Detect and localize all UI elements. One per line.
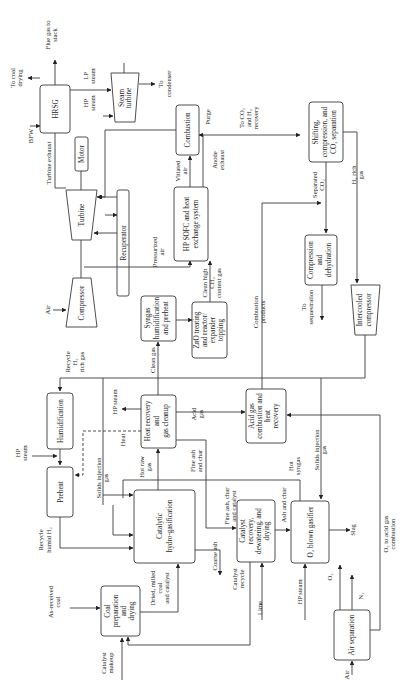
compression-label-2: and [316,254,324,265]
to-condenser-1: To [157,80,164,88]
recycle-h2-3: rich gas [78,351,85,372]
heat-label: Heat [119,434,126,447]
heat-recovery-label-1: Heat recovery [144,400,152,441]
recycle-humid-h2-1: Recycle [37,529,44,550]
syngas-label-3: and preheat [162,301,170,334]
air-left-label: Air [44,305,51,315]
dried-coal-1: Dried, milled [149,570,156,606]
o2-acid-2: combustion [389,518,396,549]
to-co2-2: and H₂ [245,109,252,127]
catalyst-recovery-label-1: Catalyst [239,519,247,543]
clean-ch4-2: CH₄ [208,277,215,289]
catalyst-recycle-1: Catalyst [231,568,238,590]
acid-gas-label-1: Acid gas [248,403,256,429]
catalyst-recovery-label-4: drying [263,521,271,540]
pressurized-air-2: air [158,248,165,256]
catalytic-hydrogasification-unit [134,490,195,563]
process-flow-diagram: HRSG Steam turbine Motor Turbine Compres… [0,0,411,683]
slag-label: Slag [349,523,356,535]
shifting-label-3: CO₂ separation [330,110,338,154]
shifting-label-1: Shifting, [312,119,320,144]
lime-label: Lime [256,601,263,615]
hot-raw-gas-1: Hot raw [138,456,145,478]
coal-prep-label-1: Coal [104,604,112,618]
preheat-label: Preheat [57,481,65,503]
catalyst-recycle-2: recycle [238,569,245,588]
syngas-label-1: Syngas [144,307,152,328]
anode-exhaust-1: Anode [211,151,218,169]
vitiated-air-2: air [181,167,188,175]
lp-steam-1: LP [82,72,89,80]
hp-steam-bottom-label: HP steam [296,579,303,605]
hot-syngas-2: syngas [294,457,301,475]
fine-ash-cat-2: and catalyst [230,490,237,521]
combustion-products-2: products [259,300,266,323]
heat-recovery-label-3: gas cleanup [162,404,170,438]
fine-ash-char-2: and char [196,449,203,472]
recuperator-label: Recuperator [120,225,128,261]
zno-label-4: topping [217,319,225,341]
air-separation-label: Air separation [348,614,356,655]
lp-steam-2: steam [89,67,96,83]
h2-rich-gas-2: gas [357,170,364,179]
anode-exhaust-2: exhaust [218,150,225,170]
coal-prep-label-3: and [120,605,128,616]
air-bottom-label: Air [343,670,350,680]
zno-label-3: expander [209,316,217,343]
catalyst-makeup-2: makeup [107,652,114,674]
zno-label-1: ZnO treating [193,311,201,348]
dried-coal-3: and catalyst [163,572,170,603]
solids-injection-1a: Solids injection [95,457,102,499]
recycle-h2-2: H₂ [71,358,78,365]
syngas-label-2: humidification [153,296,161,339]
zno-label-2: and reactor/ [201,313,209,347]
hp-steam-mid-label: HP steam [111,389,118,415]
clean-gas-label: Clean gas [149,347,156,373]
turbine-exhaust-label: Turbine exhaust [45,142,52,185]
clean-ch4-1: Clean high [201,268,208,297]
turbine-label: Turbine [78,204,86,227]
fine-ash-char-1: Fine ash [189,449,196,472]
purge-label: Purge [204,109,211,124]
solids-injection-2a: Solids injection [313,429,320,471]
compressor-label: Compressor [78,285,86,320]
steam-turbine-label-2: turbine [125,88,133,108]
catalyst-recovery-label-3: dewatering, and [255,508,263,554]
hot-raw-gas-2: gas [145,462,152,471]
h2-rich-gas-1: H₂ rich [350,165,357,185]
as-received-1: As-received [47,585,54,618]
heat-recovery-label-2: and [153,415,161,426]
intercooled-label-1: Intercooled [356,293,364,326]
o2-acid-1: O₂ to acid gas [382,515,389,552]
as-received-2: coal [54,596,61,607]
bfw-label: BFW [27,128,34,143]
acid-gas-label-4: recovery [272,403,280,429]
solids-injection-2b: gas [320,445,327,454]
sofc-unit [174,187,208,261]
catalyst-recovery-label-2: recovery, [247,518,255,545]
hot-syngas-1: Hot [287,461,294,471]
catalyst-makeup-1: Catalyst [100,652,107,674]
catalytic-label-1: Catalytic [156,513,164,539]
n2-label: N₂ [357,592,364,599]
coal-prep-label-4: drying [128,601,136,620]
compression-label-3: dehydration [325,242,333,277]
pressurized-air-1: Pressurized [151,236,158,267]
vitiated-air-1: Vitiated [174,160,181,182]
acid-gas-stream-2: gas [197,409,204,418]
o2-label: O₂ [326,573,333,580]
to-coal-drying-2: drying [16,69,23,87]
intercooled-label-2: compressor [365,293,373,327]
ash-and-char-label: Ash and char [280,487,287,523]
compression-label-1: Compression [307,241,315,279]
coal-prep-label-2: preparation [112,594,120,627]
hp-steam-left-2: steam [21,444,28,460]
fine-ash-cat-1: Fine ash, char [223,487,230,525]
hp-steam-top-2: steam [89,94,96,110]
motor-label: Motor [78,144,86,163]
solids-injection-1b: gas [102,473,109,482]
recycle-h2-1: Recycle [64,351,71,372]
combustion-label: Combustion [184,112,192,148]
to-co2-1: To CO₂ [238,108,245,128]
separated-co2-2: CO₂ [318,179,325,190]
